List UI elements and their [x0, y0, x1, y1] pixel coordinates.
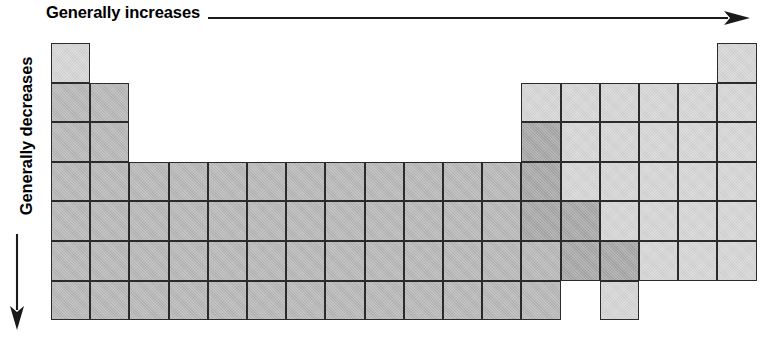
- element-cell: [208, 201, 247, 241]
- element-cell: [521, 241, 560, 281]
- element-cell: [561, 83, 600, 123]
- element-cell: [600, 162, 639, 202]
- element-cell: [286, 162, 325, 202]
- element-cell: [325, 201, 364, 241]
- element-cell: [443, 241, 482, 281]
- element-cell: [678, 241, 717, 281]
- element-cell: [51, 201, 90, 241]
- element-cell: [169, 201, 208, 241]
- element-cell: [561, 162, 600, 202]
- element-cell: [600, 83, 639, 123]
- element-cell: [286, 241, 325, 281]
- left-axis-label: Generally decreases: [16, 36, 36, 236]
- element-cell: [129, 241, 168, 281]
- element-cell: [717, 43, 756, 83]
- element-cell: [247, 162, 286, 202]
- element-cell: [286, 281, 325, 321]
- periodic-table-grid: [51, 43, 757, 320]
- top-axis: Generally increases: [0, 0, 762, 34]
- element-cell: [717, 162, 756, 202]
- arrow-right-icon: [208, 10, 750, 26]
- element-cell: [521, 162, 560, 202]
- element-cell: [717, 241, 756, 281]
- element-cell: [639, 83, 678, 123]
- element-cell: [521, 281, 560, 321]
- element-cell: [443, 281, 482, 321]
- element-cell: [482, 281, 521, 321]
- element-cell: [51, 162, 90, 202]
- element-cell: [639, 162, 678, 202]
- element-cell: [169, 162, 208, 202]
- element-cell: [247, 241, 286, 281]
- element-cell: [639, 241, 678, 281]
- element-cell: [325, 241, 364, 281]
- element-cell: [129, 162, 168, 202]
- element-cell: [482, 162, 521, 202]
- element-cell: [561, 122, 600, 162]
- element-cell: [678, 162, 717, 202]
- element-cell: [678, 201, 717, 241]
- element-cell: [129, 201, 168, 241]
- element-cell: [90, 201, 129, 241]
- element-cell: [678, 122, 717, 162]
- element-cell: [639, 201, 678, 241]
- element-cell: [51, 241, 90, 281]
- element-cell: [717, 201, 756, 241]
- element-cell: [482, 241, 521, 281]
- element-cell: [443, 201, 482, 241]
- element-cell: [521, 83, 560, 123]
- element-cell: [247, 281, 286, 321]
- element-cell: [129, 281, 168, 321]
- element-cell: [443, 162, 482, 202]
- element-cell: [600, 201, 639, 241]
- element-cell: [247, 201, 286, 241]
- element-cell: [482, 201, 521, 241]
- element-cell: [600, 122, 639, 162]
- element-cell: [286, 201, 325, 241]
- element-cell: [600, 241, 639, 281]
- element-cell: [365, 162, 404, 202]
- element-cell: [169, 241, 208, 281]
- element-cell: [208, 241, 247, 281]
- element-cell: [169, 281, 208, 321]
- element-cell: [51, 43, 90, 83]
- element-cell: [404, 241, 443, 281]
- element-cell: [51, 281, 90, 321]
- element-cell: [51, 122, 90, 162]
- element-cell: [208, 281, 247, 321]
- element-cell: [90, 122, 129, 162]
- element-cell: [325, 281, 364, 321]
- arrow-down-icon: [8, 234, 26, 330]
- element-cell: [90, 281, 129, 321]
- left-axis: Generally decreases: [0, 30, 44, 339]
- element-cell: [717, 122, 756, 162]
- element-cell: [365, 201, 404, 241]
- periodic-trend-figure: Generally increases Generally decreases: [0, 0, 762, 339]
- element-cell: [90, 241, 129, 281]
- element-cell: [365, 241, 404, 281]
- element-cell: [561, 201, 600, 241]
- element-cell: [365, 281, 404, 321]
- element-cell: [51, 83, 90, 123]
- element-cell: [90, 83, 129, 123]
- element-cell: [404, 281, 443, 321]
- element-cell: [90, 162, 129, 202]
- element-cell: [717, 83, 756, 123]
- element-cell: [521, 201, 560, 241]
- element-cell: [404, 201, 443, 241]
- element-cell: [208, 162, 247, 202]
- element-cell: [600, 281, 639, 321]
- top-axis-label: Generally increases: [46, 2, 200, 22]
- element-cell: [639, 122, 678, 162]
- element-cell: [521, 122, 560, 162]
- element-cell: [404, 162, 443, 202]
- element-cell: [678, 83, 717, 123]
- element-cell: [325, 162, 364, 202]
- element-cell: [561, 241, 600, 281]
